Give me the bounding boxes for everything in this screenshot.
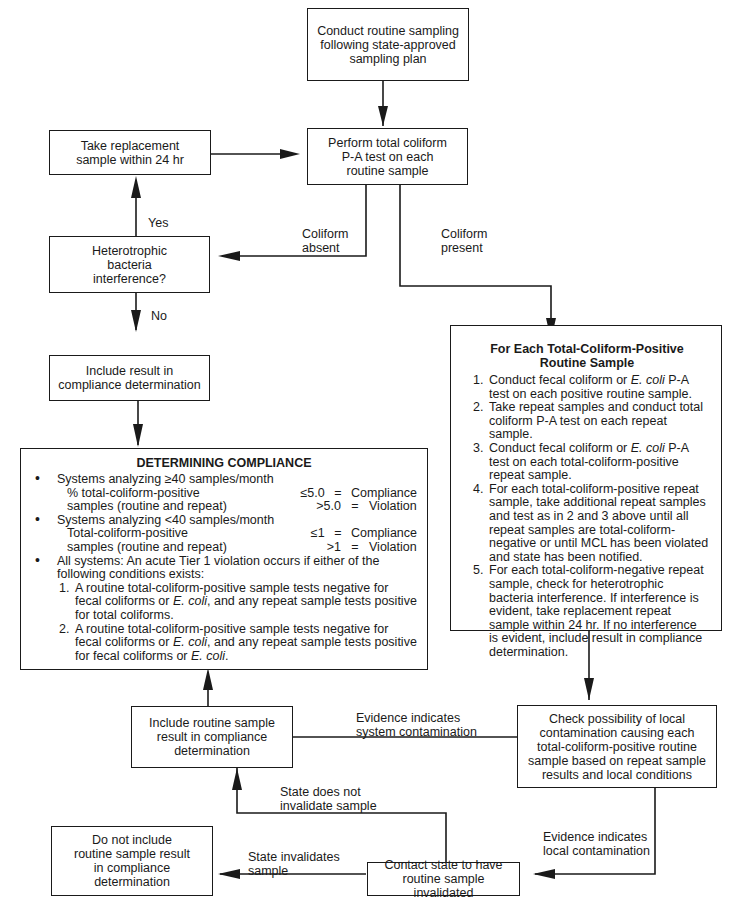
box-text: Check possibility of local contamination… (528, 712, 706, 782)
panel-determining-compliance: DETERMINING COMPLIANCE Systems analyzing… (20, 448, 428, 670)
box-do-not-include: Do not include routine sample result in … (51, 826, 213, 896)
box-perform-total-coliform-test: Perform total coliform P-A test on each … (307, 128, 468, 185)
label-local-contamination: Evidence indicates local contamination (543, 830, 650, 858)
bullet-ge40: Systems analyzing ≥40 samples/month % to… (31, 473, 417, 514)
box-text: Conduct routine sampling following state… (317, 24, 459, 66)
box-text: Contact state to have routine sample inv… (371, 858, 516, 900)
box-conduct-routine-sampling: Conduct routine sampling following state… (307, 8, 469, 81)
box-text: Include routine sample result in complia… (149, 716, 275, 758)
box-heterotrophic-interference: Heterotrophic bacteria interference? (49, 236, 210, 293)
panel-title: DETERMINING COMPLIANCE (31, 456, 417, 470)
label-state-does-not-invalidate: State does not invalidate sample (280, 785, 377, 813)
bullet-heading: Systems analyzing ≥40 samples/month (57, 473, 417, 487)
criteria-row: Total-coliform-positive≤1=Compliance (57, 527, 417, 541)
criteria-row: % total-coliform-positive≤5.0=Compliance (57, 487, 417, 501)
box-text: Take replacement sample within 24 hr (76, 139, 184, 167)
step-item: Conduct fecal coliform or E. coli P-A te… (487, 374, 709, 401)
conditions-list: A routine total-coliform-positive sample… (31, 582, 417, 664)
step-item: Conduct fecal coliform or E. coli P-A te… (487, 442, 709, 483)
label-coliform-present: Coliform present (441, 227, 488, 255)
step-item: For each total-coliform-negative repeat … (487, 564, 709, 659)
condition-item: A routine total-coliform-positive sample… (73, 582, 417, 623)
label-yes: Yes (148, 216, 168, 230)
label-system-contamination: Evidence indicates system contamination (356, 711, 477, 739)
criteria-row: samples (routine and repeat)>5.0=Violati… (57, 500, 417, 514)
box-check-local-contamination: Check possibility of local contamination… (517, 705, 717, 788)
box-include-result: Include result in compliance determinati… (49, 355, 210, 401)
bullet-all-systems: All systems: An acute Tier 1 violation o… (31, 555, 417, 582)
step-item: Take repeat samples and conduct total co… (487, 401, 709, 442)
box-contact-state: Contact state to have routine sample inv… (367, 862, 520, 896)
bullet-heading: All systems: An acute Tier 1 violation o… (57, 555, 417, 582)
step-item: For each total-coliform-positive repeat … (487, 483, 709, 565)
box-text: Heterotrophic bacteria interference? (92, 244, 167, 286)
box-text: Do not include routine sample result in … (74, 833, 190, 889)
steps-list: Conduct fecal coliform or E. coli P-A te… (465, 374, 709, 659)
panel-title: For Each Total-Coliform-PositiveRoutine … (465, 342, 709, 370)
box-include-routine-sample: Include routine sample result in complia… (131, 706, 293, 768)
panel-repeat-sample-steps: For Each Total-Coliform-PositiveRoutine … (450, 325, 722, 631)
box-text: Include result in compliance determinati… (58, 364, 200, 392)
box-text: Perform total coliform P-A test on each … (328, 136, 447, 178)
label-state-invalidates: State invalidates sample (248, 850, 340, 878)
bullet-lt40: Systems analyzing <40 samples/month Tota… (31, 514, 417, 555)
criteria-row: samples (routine and repeat)>1=Violation (57, 541, 417, 555)
box-take-replacement-sample: Take replacement sample within 24 hr (49, 130, 211, 175)
condition-item: A routine total-coliform-positive sample… (73, 623, 417, 664)
bullet-heading: Systems analyzing <40 samples/month (57, 514, 417, 528)
label-no: No (151, 309, 167, 323)
label-coliform-absent: Coliform absent (302, 227, 349, 255)
